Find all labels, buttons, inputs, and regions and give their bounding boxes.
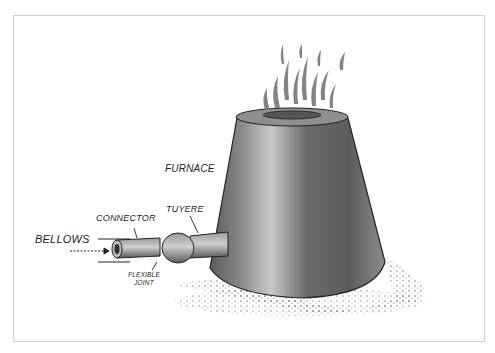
label-connector: CONNECTOR bbox=[96, 213, 156, 223]
tuyere-pipe bbox=[190, 232, 228, 258]
furnace-body bbox=[210, 108, 385, 298]
flexible-joint bbox=[162, 233, 194, 263]
label-bellows: BELLOWS bbox=[35, 233, 90, 245]
label-flexible-line2: JOINT bbox=[128, 279, 160, 287]
furnace-illustration bbox=[0, 0, 495, 353]
flames bbox=[263, 44, 345, 110]
label-flexible-joint: FLEXIBLE JOINT bbox=[128, 271, 160, 287]
label-flexible-line1: FLEXIBLE bbox=[128, 271, 160, 279]
label-tuyere: TUYERE bbox=[166, 204, 204, 214]
connector-pipe bbox=[112, 238, 160, 258]
label-furnace: FURNACE bbox=[165, 163, 215, 174]
